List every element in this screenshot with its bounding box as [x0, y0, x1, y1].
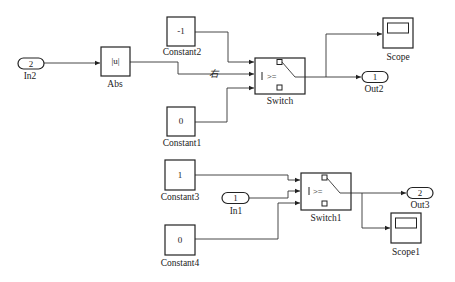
- scope-label: Scope: [386, 52, 409, 62]
- constant4-block[interactable]: 0 Constant4: [161, 225, 200, 268]
- abs-label: Abs: [107, 79, 123, 89]
- constant4-value: 0: [178, 235, 183, 245]
- inport-in1[interactable]: 1 In1: [222, 193, 249, 217]
- constant2-block[interactable]: -1 Constant2: [163, 17, 202, 57]
- constant4-label: Constant4: [161, 258, 200, 268]
- wire-switch-scope: [326, 34, 382, 77]
- inport-in2-label: In2: [24, 71, 37, 81]
- inport-in1-label: In1: [230, 206, 243, 216]
- scope1-screen-icon: [396, 218, 417, 228]
- switch-port-bottom: [277, 85, 282, 90]
- wire-switch1-scope1: [362, 193, 390, 228]
- scope-block[interactable]: Scope: [383, 18, 413, 62]
- switch1-criteria: >=: [313, 187, 323, 196]
- inport-in2[interactable]: 2 In2: [18, 58, 44, 81]
- constant2-value: -1: [177, 26, 185, 36]
- switch1-label: Switch1: [310, 213, 341, 223]
- constant1-value: 0: [179, 116, 184, 126]
- outport-out3-label: Out3: [411, 200, 430, 210]
- outport-out3[interactable]: 2 Out3: [407, 188, 433, 211]
- switch-criteria: >=: [267, 72, 277, 81]
- switch1-port-top: [322, 175, 327, 180]
- switch-port-top: [277, 60, 282, 65]
- signal-label: 右: [209, 69, 220, 79]
- outport-out2-label: Out2: [365, 84, 384, 94]
- wire-constant1-switch: [195, 88, 254, 122]
- simulink-diagram: 2 In2 |u| Abs -1 Constant2 右 0 Constant1…: [0, 0, 455, 282]
- scope-screen-icon: [388, 23, 409, 33]
- constant1-block[interactable]: 0 Constant1: [163, 107, 202, 148]
- wire-constant4-switch1: [195, 203, 300, 239]
- inport-in2-number: 2: [29, 59, 34, 69]
- switch-block[interactable]: >= Switch: [255, 58, 305, 106]
- constant2-label: Constant2: [163, 47, 202, 57]
- abs-symbol: |u|: [111, 56, 119, 66]
- constant3-label: Constant3: [161, 192, 200, 202]
- outport-out3-number: 2: [418, 188, 423, 198]
- constant3-value: 1: [178, 170, 183, 180]
- constant1-label: Constant1: [163, 138, 202, 148]
- constant3-block[interactable]: 1 Constant3: [161, 160, 200, 202]
- switch1-port-bottom: [322, 201, 327, 206]
- inport-in1-number: 1: [233, 193, 238, 203]
- outport-out2-number: 1: [373, 72, 378, 82]
- wire-constant2-switch: [195, 32, 254, 62]
- abs-block[interactable]: |u| Abs: [101, 47, 130, 89]
- outport-out2[interactable]: 1 Out2: [362, 72, 388, 95]
- wire-abs-switch: [130, 62, 254, 74]
- scope1-block[interactable]: Scope1: [391, 213, 421, 257]
- switch-label: Switch: [267, 96, 294, 106]
- wire-in1-switch1: [249, 191, 300, 198]
- switch1-block[interactable]: >= Switch1: [301, 173, 351, 223]
- scope1-label: Scope1: [392, 247, 420, 257]
- wire-constant3-switch1: [195, 175, 300, 180]
